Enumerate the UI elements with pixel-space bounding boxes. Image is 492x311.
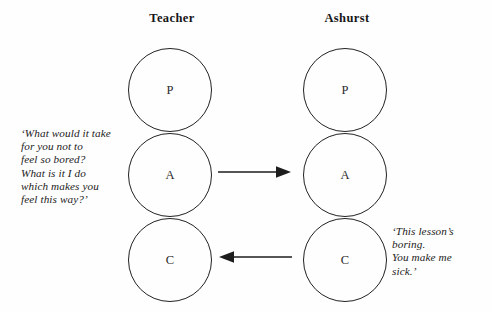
arrow-left-icon-child-to-child	[218, 248, 292, 266]
ego-state-circle-ashurst-child: C	[303, 218, 387, 302]
ego-state-circle-teacher-adult: A	[128, 133, 212, 217]
diagram-canvas: Teacher Ashurst P A C P A C ‘What would …	[0, 0, 492, 311]
ego-state-circle-ashurst-adult: A	[303, 133, 387, 217]
column-label-ashurst: Ashurst	[324, 11, 369, 26]
ego-state-letter: C	[166, 254, 174, 267]
ego-state-circle-teacher-parent: P	[128, 48, 212, 132]
ego-state-letter: A	[165, 169, 174, 182]
arrow-right-icon-adult-to-adult	[218, 163, 292, 181]
quote-teacher: ‘What would it take for you not to feel …	[21, 127, 139, 206]
ego-state-letter: P	[342, 84, 349, 97]
ego-state-letter: P	[167, 84, 174, 97]
ego-state-circle-teacher-child: C	[128, 218, 212, 302]
quote-ashurst: ‘This lesson’s boring. You make me sick.…	[392, 225, 488, 278]
ego-state-letter: A	[340, 169, 349, 182]
ego-state-circle-ashurst-parent: P	[303, 48, 387, 132]
ego-state-letter: C	[341, 254, 349, 267]
column-label-teacher: Teacher	[149, 11, 194, 26]
